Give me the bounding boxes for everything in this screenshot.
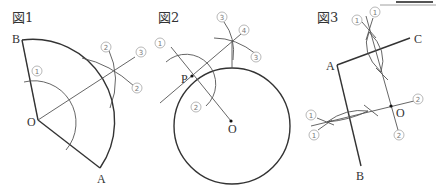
step-label-2b: 2: [132, 83, 142, 93]
svg-text:2: 2: [416, 96, 420, 104]
step-label-2-fig2: 2: [191, 102, 201, 112]
step-label-3a-fig2: 3: [217, 12, 227, 22]
label-O2: O: [228, 122, 237, 136]
step-label-1: 1: [32, 66, 42, 76]
step-label-1-fig2: 1: [155, 38, 165, 48]
step-label-3b-fig2: 3: [251, 52, 261, 62]
label-P: P: [181, 72, 188, 86]
perp-bisector-AC: [366, 16, 398, 130]
svg-text:2: 2: [397, 132, 401, 140]
figure-1: 図1 B O A 1 2 3 2: [12, 10, 146, 186]
step-label-1d-fig3: 1: [309, 130, 319, 140]
label-A3: A: [326, 59, 335, 73]
svg-text:3: 3: [139, 49, 143, 57]
label-O: O: [27, 115, 36, 129]
step-label-1b-fig3: 1: [370, 7, 380, 17]
sector-arc-AB: [22, 39, 115, 168]
step-label-2b-fig3: 2: [394, 130, 404, 140]
svg-text:1: 1: [35, 68, 39, 76]
svg-text:2: 2: [104, 44, 108, 52]
point-P: [190, 74, 193, 77]
label-A: A: [97, 172, 106, 186]
figure-1-title: 図1: [12, 10, 33, 25]
label-O3: O: [396, 106, 405, 120]
svg-text:2: 2: [135, 85, 139, 93]
label-C: C: [414, 32, 422, 46]
svg-text:3: 3: [254, 54, 258, 62]
bisector-ray-step-3: [38, 57, 135, 120]
step-label-2a-fig3: 2: [413, 94, 423, 104]
label-B: B: [12, 32, 20, 46]
svg-text:1: 1: [158, 40, 162, 48]
construction-diagram: 図1 B O A 1 2 3 2: [0, 0, 436, 195]
step-label-1a-fig3: 1: [352, 15, 362, 25]
svg-text:1: 1: [355, 17, 359, 25]
figure-3: 図3 A C B O 1 1: [306, 7, 423, 183]
figure-2-title: 図2: [158, 10, 179, 25]
point-O3: [389, 104, 392, 107]
label-B3: B: [356, 169, 364, 183]
step-label-2a: 2: [101, 42, 111, 52]
radius-OA: [38, 120, 100, 168]
svg-text:2: 2: [194, 104, 198, 112]
svg-text:3: 3: [220, 14, 224, 22]
step-label-4-fig2: 4: [239, 25, 249, 35]
svg-text:4: 4: [242, 27, 247, 35]
step-label-1c-fig3: 1: [306, 110, 316, 120]
svg-text:1: 1: [309, 112, 313, 120]
radius-OB: [22, 40, 38, 120]
step-label-3: 3: [136, 47, 146, 57]
svg-text:1: 1: [312, 132, 316, 140]
figure-3-title: 図3: [317, 10, 338, 25]
svg-text:1: 1: [373, 9, 377, 17]
figure-2: 図2 P O 1 2 3 4: [155, 10, 290, 184]
